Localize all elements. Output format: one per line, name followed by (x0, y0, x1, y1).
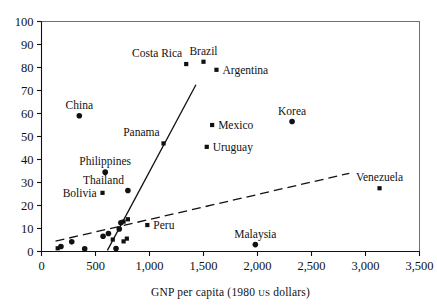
x-tick-label: 3,000 (351, 259, 379, 273)
y-tick-label: 20 (21, 199, 34, 213)
data-point-label: Uruguay (213, 141, 253, 154)
plot-svg: 0102030405060708090100 05001,0001,5002,0… (0, 0, 437, 306)
x-axis-tick-labels: 05001,0001,5002,0002,5003,0003,500 (38, 259, 433, 273)
y-tick-label: 60 (21, 107, 34, 121)
data-point-circle (113, 246, 119, 252)
data-point-circle (118, 220, 124, 226)
data-point-label: Korea (278, 105, 306, 117)
data-point-square (161, 141, 165, 145)
y-tick-label: 0 (27, 245, 33, 259)
y-tick-label: 30 (21, 176, 34, 190)
scatter-chart: 0102030405060708090100 05001,0001,5002,0… (0, 0, 437, 306)
data-point-circle (106, 231, 112, 237)
data-point-label: China (66, 99, 93, 111)
data-point-square (201, 60, 205, 64)
data-point-label: Bolivia (63, 187, 97, 199)
data-point-square (210, 123, 214, 127)
data-point-label: Philippines (79, 155, 131, 168)
y-tick-label: 90 (21, 38, 34, 52)
data-point-label: Thailand (83, 174, 124, 186)
y-tick-label: 40 (21, 153, 34, 167)
x-tick-label: 1,500 (189, 259, 217, 273)
x-tick-label: 500 (86, 259, 105, 273)
data-point-label: Malaysia (234, 228, 276, 241)
x-tick-label: 0 (38, 259, 44, 273)
data-point-circle (253, 242, 259, 248)
x-axis-title-text: GNP per capita (1980 US dollars) (151, 286, 310, 299)
x-tick-label: 1,000 (135, 259, 163, 273)
axis-ticks (37, 22, 420, 257)
data-point-circle (100, 234, 106, 240)
data-point-circle (289, 119, 295, 125)
x-tick-label: 2,000 (243, 259, 271, 273)
data-point-square (56, 246, 60, 250)
data-point-labels: Costa RicaBrazilArgentinaChinaKoreaMexic… (63, 45, 404, 241)
data-point-label: Venezuela (356, 171, 403, 183)
data-point-circle (116, 226, 122, 232)
y-tick-label: 50 (21, 130, 34, 144)
data-point-circle (77, 113, 83, 119)
data-point-label: Costa Rica (132, 47, 182, 59)
y-tick-label: 10 (21, 222, 34, 236)
y-tick-label: 100 (15, 15, 34, 29)
data-point-square (205, 145, 209, 149)
data-point-square (121, 239, 125, 243)
plot-frame (42, 22, 420, 252)
x-tick-label: 3,500 (405, 259, 433, 273)
x-tick-label: 2,500 (297, 259, 325, 273)
y-axis-tick-labels: 0102030405060708090100 (15, 15, 34, 259)
data-point-label: Panama (123, 126, 159, 138)
data-point-label: Argentina (222, 64, 268, 77)
data-point-square (100, 191, 104, 195)
data-point-square (184, 62, 188, 66)
y-tick-label: 80 (21, 61, 34, 75)
data-point-square (111, 237, 115, 241)
data-point-label: Brazil (189, 45, 217, 57)
x-axis-title: GNP per capita (1980 US dollars) (151, 286, 310, 299)
data-point-square (214, 68, 218, 72)
y-tick-label: 70 (21, 84, 34, 98)
data-point-square (126, 217, 130, 221)
data-point-label: Peru (153, 219, 174, 231)
data-point-circle (125, 188, 131, 194)
data-point-label: Mexico (218, 119, 253, 131)
data-point-circle (69, 239, 75, 245)
data-point-circle (82, 246, 88, 252)
data-point-square (145, 223, 149, 227)
data-point-square (377, 186, 381, 190)
